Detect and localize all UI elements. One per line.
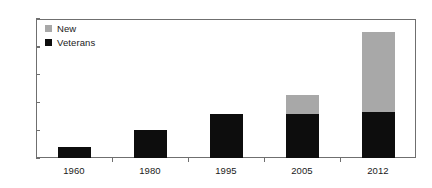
legend-item-veterans: Veterans (45, 36, 95, 49)
x-axis-tick-mark (264, 158, 265, 162)
bar-group-2005 (286, 19, 319, 158)
x-axis-tick-mark (340, 158, 341, 162)
stacked-bar-chart: 0510152025 19601980199520052012 NewVeter… (0, 0, 432, 188)
bar-segment-1960-veterans (58, 147, 91, 158)
x-axis-tick-label-1995: 1995 (188, 165, 264, 176)
x-axis-tick-mark (188, 158, 189, 162)
bar-segment-2012-new (362, 32, 395, 112)
x-axis-tick-label-2005: 2005 (264, 165, 340, 176)
y-axis-tick-mark (36, 74, 40, 75)
legend-item-new: New (45, 22, 95, 35)
bar-group-1995 (210, 19, 243, 158)
legend-swatch-veterans-icon (45, 39, 52, 46)
bar-segment-1995-veterans (210, 114, 243, 158)
legend-label: Veterans (57, 37, 95, 48)
y-axis-tick-mark (36, 46, 40, 47)
x-axis-tick-mark (112, 158, 113, 162)
bar-segment-2005-new (286, 95, 319, 113)
y-axis-tick-mark (36, 102, 40, 103)
y-axis: 0510152025 (0, 0, 36, 188)
x-axis-tick-label-1980: 1980 (112, 165, 188, 176)
legend-label: New (57, 23, 76, 34)
legend-swatch-new-icon (45, 25, 52, 32)
bar-segment-1980-veterans (134, 130, 167, 158)
x-axis-tick-label-1960: 1960 (36, 165, 112, 176)
y-axis-tick-mark (36, 157, 40, 158)
bar-segment-2005-veterans (286, 114, 319, 158)
y-axis-tick-mark (36, 130, 40, 131)
bar-group-1980 (134, 19, 167, 158)
bar-group-2012 (362, 19, 395, 158)
y-axis-tick-mark (36, 18, 40, 19)
chart-legend: NewVeterans (45, 22, 95, 50)
bar-segment-2012-veterans (362, 112, 395, 158)
x-axis-tick-label-2012: 2012 (340, 165, 416, 176)
